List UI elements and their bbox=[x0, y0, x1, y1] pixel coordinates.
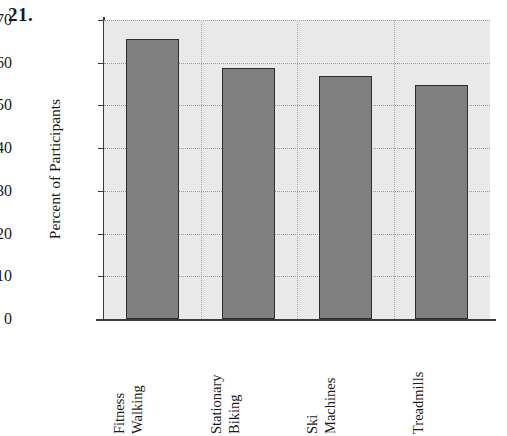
bar bbox=[126, 39, 179, 319]
x-tick-label-line: Treadmills bbox=[410, 372, 427, 434]
y-tick-label: 70 bbox=[0, 12, 12, 28]
y-axis-title: Percent of Participants bbox=[46, 49, 64, 289]
y-tick-label: 0 bbox=[0, 311, 12, 327]
y-tick-mark bbox=[98, 234, 104, 235]
bar-chart bbox=[104, 20, 490, 319]
y-tick-mark bbox=[98, 105, 104, 106]
gridline-x-1 bbox=[201, 20, 203, 319]
y-tick-label: 20 bbox=[0, 226, 12, 242]
y-tick-mark bbox=[98, 20, 104, 21]
bar bbox=[415, 85, 468, 319]
y-tick-mark bbox=[98, 148, 104, 149]
y-tick-mark bbox=[98, 191, 104, 192]
y-tick-mark bbox=[98, 276, 104, 277]
y-tick-label: 30 bbox=[0, 183, 12, 199]
x-tick-label: Biking bbox=[243, 326, 261, 434]
x-tick-label-line: Biking bbox=[226, 395, 243, 434]
y-tick-label: 50 bbox=[0, 97, 12, 113]
y-tick-label: 40 bbox=[0, 140, 12, 156]
gridline-x-2 bbox=[297, 20, 299, 319]
gridline-x-3 bbox=[394, 20, 396, 319]
x-tick-label-line: Fitness bbox=[111, 393, 128, 434]
x-tick-label: Walking bbox=[146, 326, 164, 434]
bar bbox=[319, 76, 372, 319]
y-tick-label: 10 bbox=[0, 268, 12, 284]
x-tick-label: Machines bbox=[339, 326, 357, 434]
y-tick-mark bbox=[98, 319, 104, 320]
y-tick-label: 60 bbox=[0, 55, 12, 71]
x-tick-label-line: Machines bbox=[322, 378, 339, 434]
x-tick-label-line: Ski bbox=[304, 415, 321, 434]
x-tick-label: Treadmills bbox=[427, 326, 445, 434]
x-axis-line bbox=[96, 319, 496, 321]
x-tick-label-line: Stationary bbox=[208, 374, 225, 434]
bar bbox=[222, 68, 275, 319]
y-tick-mark bbox=[98, 63, 104, 64]
x-tick-label-line: Walking bbox=[129, 385, 146, 434]
